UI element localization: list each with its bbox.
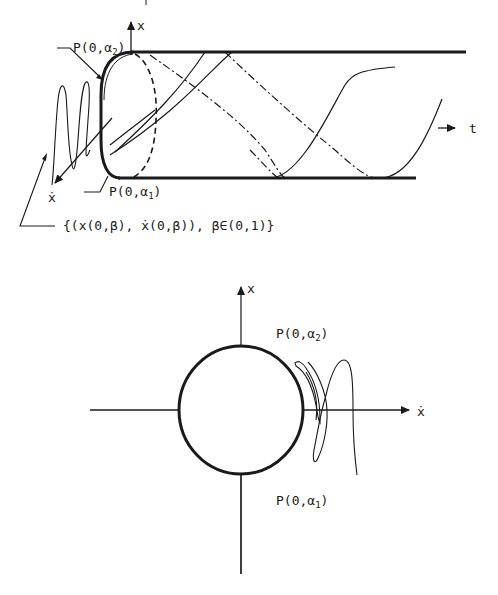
label-xdot: ẋ [48,190,56,205]
axis-x-label: x [137,18,145,33]
leader-set-arrowhead [42,153,47,161]
image-curve-wiggle [308,360,357,475]
figure: x t ẋ P(0,α2) P(0,α1) [0,0,498,595]
tube-left-cap [101,52,133,178]
trajectory-solid-2 [270,67,395,178]
bottom-diagram: x ẋ P(0,α2) P(0,α1) [90,281,425,574]
label-p-alpha1-bottom: P(0,α1) [276,493,328,510]
label-p-alpha1-top: P(0,α1) [109,184,161,201]
leader-p-alpha1 [84,176,108,192]
limit-cycle-circle [179,346,303,474]
trajectory-solid-3 [380,99,442,178]
set-label: {(x(0,β), ẋ(0,β)), β∈(0,1)} [63,218,274,233]
label-p-alpha2-top: P(0,α2) [73,40,125,57]
axis-xdot-label-bottom: ẋ [417,404,425,419]
axis-x-label-bottom: x [247,281,255,296]
xdot-axis-arrow [55,118,112,183]
top-diagram: x t ẋ P(0,α2) P(0,α1) [20,0,477,233]
axis-t-label: t [469,121,477,136]
initial-curve-wiggle [52,82,90,185]
label-p-alpha2-bottom: P(0,α2) [276,326,328,343]
tube-left-cap-inner [104,54,133,100]
trajectory-dashdot-1 [150,55,285,178]
trajectory-solid-1a [115,52,205,152]
